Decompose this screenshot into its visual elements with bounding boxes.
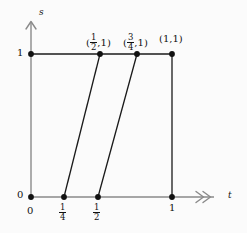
x-tick-label-one: 1	[169, 203, 175, 213]
paren-close: )	[144, 37, 148, 48]
point-quarter-bottom	[61, 194, 67, 200]
y-axis-label: s	[39, 8, 44, 17]
slant-line-2	[98, 54, 137, 197]
point-left-top	[28, 51, 34, 57]
x-axis-label: t	[228, 191, 232, 200]
point-threequarter-top	[134, 51, 140, 57]
axes-group	[26, 22, 214, 203]
x-tick-label-0: 0	[27, 206, 33, 216]
point-label-half-one: (12,1)	[86, 33, 111, 51]
fraction-one-half: 1 2	[93, 203, 100, 221]
point-half-top	[97, 51, 103, 57]
fraction-one-quarter: 1 4	[59, 203, 66, 221]
figure-container: s t 1 0 0 1 4 1 2 1 (12,1) (34,1) (1,1)	[0, 0, 247, 233]
fraction-denominator: 2	[93, 212, 100, 222]
paren-close: )	[179, 33, 183, 44]
fraction-numerator: 1	[93, 203, 100, 212]
point-half-bottom	[95, 194, 101, 200]
y-tick-label-0: 0	[17, 190, 23, 200]
fraction-numerator: 1	[59, 203, 66, 212]
region-outline-group	[31, 54, 172, 197]
paren-close: )	[107, 37, 111, 48]
fraction-denominator: 4	[59, 212, 66, 222]
point-label-threequarter-one: (34,1)	[123, 33, 148, 51]
data-points-group	[28, 51, 175, 200]
x-tick-label-quarter: 1 4	[59, 203, 66, 221]
x-tick-label-half: 1 2	[93, 203, 100, 221]
point-origin	[28, 194, 34, 200]
point-label-one-one: (1,1)	[159, 34, 183, 44]
y-tick-label-1: 1	[17, 48, 23, 58]
slant-line-1	[64, 54, 100, 197]
point-one-bottom	[169, 194, 175, 200]
point-one-top	[169, 51, 175, 57]
